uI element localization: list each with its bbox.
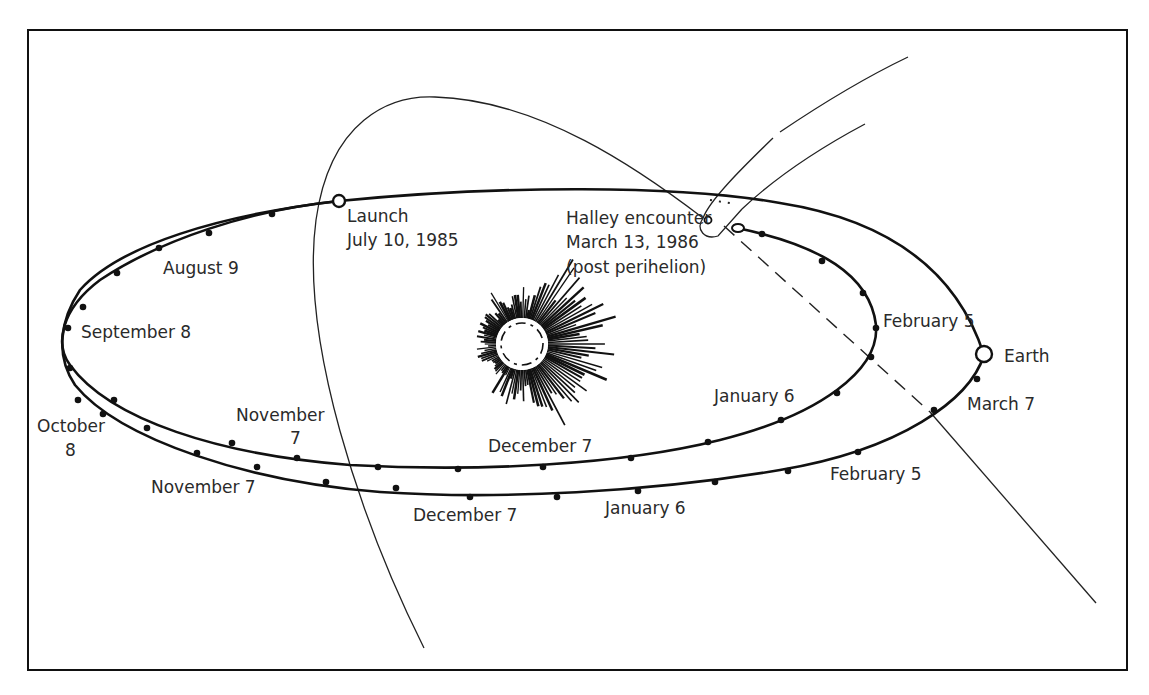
orbit-date-dot <box>375 464 382 471</box>
launch-date-label: July 10, 1985 <box>346 230 459 250</box>
orbit-date-dot <box>156 245 163 252</box>
label-inner-december: December 7 <box>488 436 592 456</box>
label-inner-january: January 6 <box>713 386 795 406</box>
orbit-date-dot <box>206 230 213 237</box>
orbit-date-dot <box>712 479 719 486</box>
orbit-diagram: Launch July 10, 1985 Halley encounter Ma… <box>0 0 1149 695</box>
orbit-date-dot <box>144 425 151 432</box>
label-outer-december: December 7 <box>413 505 517 525</box>
label-outer-march: March 7 <box>967 394 1035 414</box>
orbit-date-dot <box>75 397 82 404</box>
orbit-date-dot <box>860 290 867 297</box>
halley-orbit <box>313 97 703 648</box>
orbit-date-dot <box>705 439 712 446</box>
orbit-date-dot <box>834 390 841 397</box>
earth-label: Earth <box>1004 346 1050 366</box>
label-inner-august: August 9 <box>163 258 239 278</box>
sun-ray <box>523 287 524 318</box>
encounter-date-label: March 13, 1986 <box>566 232 699 252</box>
orbit-date-dot <box>635 488 642 495</box>
orbit-date-dot <box>65 325 72 332</box>
launch-marker-icon <box>333 195 345 207</box>
label-inner-november-1: November <box>236 405 324 425</box>
sun-icon <box>477 260 616 426</box>
sun-ray <box>521 370 522 391</box>
orbit-date-dot <box>554 494 561 501</box>
orbit-date-dot <box>254 464 261 471</box>
comet-tail-inner <box>742 124 865 209</box>
orbit-date-dot <box>229 440 236 447</box>
sun-ray <box>546 354 607 380</box>
label-outer-november: November 7 <box>151 477 256 497</box>
orbit-date-dot <box>67 365 74 372</box>
label-inner-november-2: 7 <box>290 428 301 448</box>
comet-tail-outer <box>703 138 773 218</box>
orbit-date-dot <box>759 231 766 238</box>
spacecraft-encounter-icon <box>732 224 744 232</box>
halley-outbound-path <box>930 412 1096 603</box>
orbit-date-dot <box>931 407 938 414</box>
orbit-date-dot <box>455 466 462 473</box>
label-outer-october-1: October <box>37 416 105 436</box>
orbit-date-dot <box>269 211 276 218</box>
encounter-note-label: (post perihelion) <box>566 257 706 277</box>
earth-marker-icon <box>976 346 992 362</box>
orbit-date-dot <box>294 455 301 462</box>
orbit-date-dot <box>80 304 87 311</box>
encounter-label: Halley encounter <box>566 208 711 228</box>
orbit-date-dot <box>628 455 635 462</box>
label-inner-february: February 5 <box>883 311 975 331</box>
label-inner-september: September 8 <box>81 322 191 342</box>
orbit-date-dot <box>868 354 875 361</box>
orbit-date-dot <box>540 464 547 471</box>
orbit-date-dot <box>855 449 862 456</box>
orbit-date-dot <box>778 417 785 424</box>
sun-disk <box>496 318 548 370</box>
launch-label: Launch <box>347 206 409 226</box>
label-outer-february: February 5 <box>830 464 922 484</box>
orbit-date-dot <box>467 494 474 501</box>
orbit-date-dot <box>194 450 201 457</box>
orbit-date-dot <box>114 270 121 277</box>
orbit-date-dot <box>111 397 118 404</box>
label-outer-january: January 6 <box>604 498 686 518</box>
orbit-date-dot <box>323 479 330 486</box>
orbit-date-dot <box>873 325 880 332</box>
orbit-date-dot <box>974 376 981 383</box>
orbit-date-dot <box>819 258 826 265</box>
orbit-date-dot <box>785 468 792 475</box>
orbit-date-dot <box>393 485 400 492</box>
sun-ray <box>523 370 524 401</box>
comet-tail-outer-far <box>780 57 908 132</box>
label-outer-october-2: 8 <box>65 440 76 460</box>
